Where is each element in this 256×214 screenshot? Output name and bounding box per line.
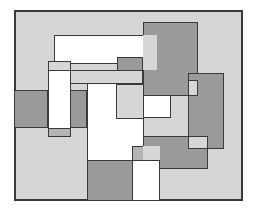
rect-light-top-overlap <box>143 35 157 70</box>
rect-center-light-box <box>116 84 144 119</box>
rect-bottom-white-right <box>132 160 160 201</box>
rect-white-right-box <box>143 95 171 118</box>
rect-light-mid-band <box>70 70 143 84</box>
rect-white-notch-right <box>188 136 208 149</box>
rect-mid-dark-small <box>70 90 87 128</box>
abstract-rectangle-composition <box>0 0 256 214</box>
rect-left-dark <box>14 90 48 128</box>
rect-bottom-dark-left <box>87 160 133 201</box>
rect-right-light-notch <box>188 80 198 96</box>
rect-dark-mid-strip <box>117 57 143 71</box>
rect-left-white-column <box>48 70 71 137</box>
rect-left-white-bottom-tab <box>48 128 71 137</box>
rect-bottom-light-strip <box>143 146 160 161</box>
